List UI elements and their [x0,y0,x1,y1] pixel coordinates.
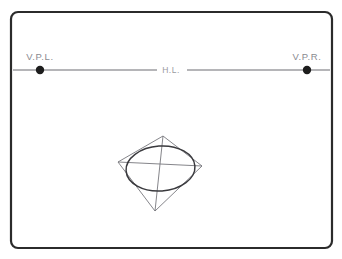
perspective-diagram: H.L. V.P.L. V.P.R. [0,0,342,259]
vanishing-point-right-label: V.P.R. [293,51,322,62]
outer-border [11,12,332,248]
vanishing-point-right-dot [303,66,311,74]
horizon-line-label: H.L. [162,65,180,75]
vanishing-point-left-dot [36,66,44,74]
vanishing-point-left-label: V.P.L. [26,51,53,62]
diagram-canvas: H.L. V.P.L. V.P.R. [0,0,342,259]
